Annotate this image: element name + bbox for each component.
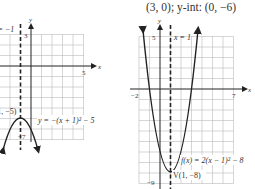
left-graph: x y 3 5 −7 x = −1 (−1, −5) y = −(x + 1)²… [0, 16, 103, 150]
right-tick-7: 7 [232, 92, 236, 100]
right-equation-label: f(x) = 2(x − 1)² − 8 [181, 156, 244, 165]
left-vertex-label: (−1, −5) [0, 107, 17, 116]
left-tick-5: 5 [82, 69, 86, 77]
left-x-axis-label: x [97, 63, 102, 71]
graphs-canvas: x y 3 5 −7 x = −1 (−1, −5) y = −(x + 1)²… [0, 0, 255, 189]
right-graph: x y 5 −2 7 −9 x = 1 f(x) = 2(x − 1)² − 8… [130, 17, 255, 189]
left-y-axis-label: y [28, 16, 33, 24]
right-symmetry-label: x = 1 [173, 33, 191, 42]
left-symmetry-label: x = −1 [0, 25, 14, 34]
right-tick-5: 5 [152, 34, 156, 42]
right-y-axis-label: y [157, 17, 162, 25]
right-x-axis-label: x [247, 86, 252, 94]
right-vertex-label: V(1, −8) [173, 171, 201, 180]
left-tick-minus-7: −7 [18, 133, 26, 141]
right-tick-minus-2: −2 [131, 92, 139, 100]
right-tick-minus-9: −9 [147, 179, 155, 187]
left-equation-label: y = −(x + 1)² − 5 [37, 116, 94, 125]
left-tick-3: 3 [24, 32, 28, 40]
